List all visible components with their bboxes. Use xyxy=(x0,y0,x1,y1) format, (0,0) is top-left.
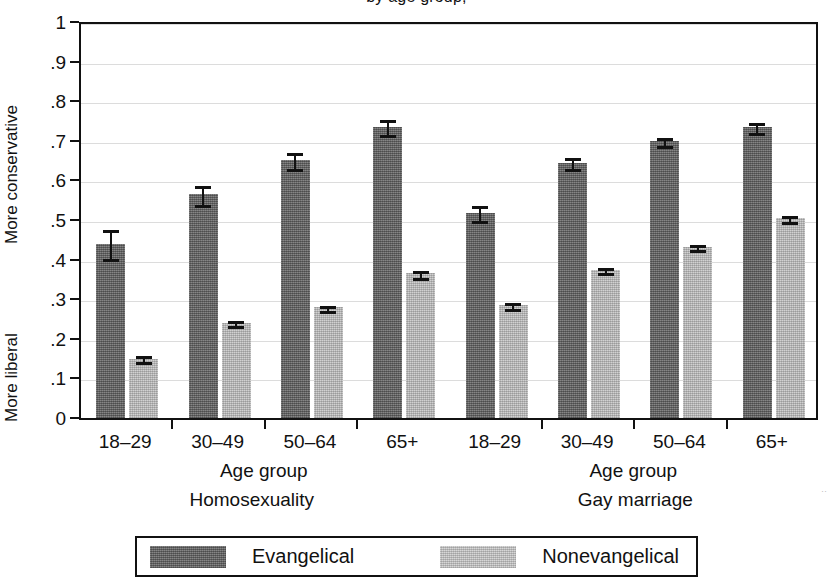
error-bar-cap xyxy=(103,259,119,262)
plot-area xyxy=(79,22,818,418)
y-tick-mark xyxy=(70,298,79,300)
error-bar-cap xyxy=(103,230,119,233)
error-bar-cap xyxy=(598,268,614,271)
legend-swatch-evangelical xyxy=(150,546,226,568)
error-bar-cap xyxy=(136,362,152,365)
error-bar-cap xyxy=(228,326,244,329)
y-axis-label-liberal: More liberal xyxy=(2,272,22,422)
y-tick-label: .3 xyxy=(32,290,66,309)
error-bar-cap xyxy=(782,222,798,225)
bar-nonevan-gay-marriage-18–29 xyxy=(499,305,528,418)
x-tick-mark xyxy=(633,418,635,429)
gridline xyxy=(81,103,816,104)
y-tick-label: .9 xyxy=(32,52,66,71)
bar-nonevan-homosexuality-30–49 xyxy=(222,323,251,418)
legend-label-evangelical: Evangelical xyxy=(252,545,354,568)
y-tick-mark xyxy=(70,61,79,63)
error-bar-stem xyxy=(110,230,112,260)
error-bar-cap xyxy=(413,271,429,274)
y-tick-mark xyxy=(70,338,79,340)
gridline xyxy=(81,64,816,65)
x-tick-label-50–64: 50–64 xyxy=(284,432,337,451)
bar-nonevan-homosexuality-65+ xyxy=(406,273,435,418)
error-bar-cap xyxy=(320,311,336,314)
error-bar-cap xyxy=(690,250,706,253)
error-bar-cap xyxy=(690,245,706,248)
figure-bar-chart: by age group, More conservative More lib… xyxy=(0,0,833,586)
gridline xyxy=(81,143,816,144)
axis-label-age-group-2: Age group xyxy=(589,460,677,482)
y-tick-mark xyxy=(70,100,79,102)
legend-item-nonevangelical: Nonevangelical xyxy=(440,545,679,568)
error-bar-cap xyxy=(598,273,614,276)
gridline xyxy=(81,182,816,183)
error-bar-cap xyxy=(136,356,152,359)
bar-evan-homosexuality-18–29 xyxy=(96,244,125,418)
error-bar-cap xyxy=(749,133,765,136)
y-tick-mark xyxy=(70,377,79,379)
error-bar-cap xyxy=(505,303,521,306)
x-tick-label-50–64: 50–64 xyxy=(653,432,706,451)
bar-evan-gay-marriage-50–64 xyxy=(650,141,679,418)
x-tick-mark xyxy=(171,418,173,429)
error-bar-cap xyxy=(287,169,303,172)
bar-nonevan-homosexuality-18–29 xyxy=(129,359,158,418)
error-bar-cap xyxy=(472,206,488,209)
y-tick-mark xyxy=(70,417,79,419)
y-tick-mark xyxy=(70,21,79,23)
x-tick-mark xyxy=(541,418,543,429)
bar-evan-gay-marriage-18–29 xyxy=(466,213,495,418)
bar-nonevan-gay-marriage-50–64 xyxy=(683,247,712,418)
error-bar-cap xyxy=(565,158,581,161)
bar-nonevan-homosexuality-50–64 xyxy=(314,307,343,418)
y-tick-label: .5 xyxy=(32,211,66,230)
y-axis-label-conservative: More conservative xyxy=(2,14,22,244)
error-bar-cap xyxy=(749,123,765,126)
y-tick-label: .7 xyxy=(32,131,66,150)
bar-nonevan-gay-marriage-65+ xyxy=(776,218,805,418)
y-tick-mark xyxy=(70,179,79,181)
scan-artifact: ·· xyxy=(821,486,827,496)
bar-evan-homosexuality-65+ xyxy=(373,127,402,418)
error-bar-stem xyxy=(202,186,204,207)
legend-swatch-nonevangelical xyxy=(440,546,516,568)
x-tick-label-30–49: 30–49 xyxy=(561,432,614,451)
error-bar-cap xyxy=(320,306,336,309)
x-tick-label-65+: 65+ xyxy=(386,432,418,451)
bar-evan-gay-marriage-30–49 xyxy=(558,163,587,418)
y-tick-label: .8 xyxy=(32,92,66,111)
chart-title: by age group, xyxy=(0,0,833,6)
gridline xyxy=(81,24,816,25)
legend: Evangelical Nonevangelical xyxy=(135,536,698,577)
y-tick-mark xyxy=(70,219,79,221)
legend-item-evangelical: Evangelical xyxy=(150,545,354,568)
error-bar-cap xyxy=(195,205,211,208)
error-bar-cap xyxy=(228,321,244,324)
y-tick-label: .4 xyxy=(32,250,66,269)
y-tick-label: .6 xyxy=(32,171,66,190)
error-bar-cap xyxy=(195,186,211,189)
error-bar-cap xyxy=(565,169,581,172)
panel-label-gay-marriage: Gay marriage xyxy=(578,489,693,511)
y-tick-label: .1 xyxy=(32,369,66,388)
bar-nonevan-gay-marriage-30–49 xyxy=(591,270,620,419)
x-tick-label-65+: 65+ xyxy=(756,432,788,451)
bar-evan-homosexuality-50–64 xyxy=(281,160,310,418)
error-bar-cap xyxy=(782,216,798,219)
x-tick-mark xyxy=(726,418,728,429)
x-axis-line xyxy=(79,418,818,420)
error-bar-cap xyxy=(472,221,488,224)
error-bar-cap xyxy=(287,153,303,156)
y-tick-label: .2 xyxy=(32,329,66,348)
error-bar-cap xyxy=(657,138,673,141)
bar-evan-homosexuality-30–49 xyxy=(189,194,218,418)
error-bar-cap xyxy=(380,120,396,123)
axis-label-age-group-1: Age group xyxy=(220,460,308,482)
y-tick-label: 1 xyxy=(32,13,66,32)
y-tick-mark xyxy=(70,140,79,142)
bar-evan-gay-marriage-65+ xyxy=(743,127,772,418)
error-bar-cap xyxy=(413,278,429,281)
y-tick-mark xyxy=(70,259,79,261)
legend-label-nonevangelical: Nonevangelical xyxy=(542,545,679,568)
x-tick-label-18–29: 18–29 xyxy=(99,432,152,451)
